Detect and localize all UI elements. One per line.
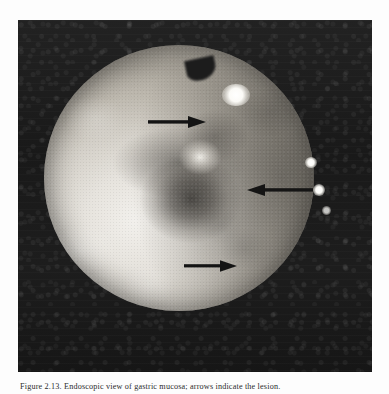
figure-caption: Figure 2.13. Endoscopic view of gastric … bbox=[20, 381, 372, 392]
annotation-arrow-top bbox=[148, 113, 210, 131]
annotation-arrow-bottom bbox=[184, 257, 240, 275]
vignette-layer bbox=[44, 45, 314, 311]
endoscopic-circular-field bbox=[44, 45, 314, 311]
annotation-arrow-middle bbox=[244, 181, 314, 199]
figure-page: Figure 2.13. Endoscopic view of gastric … bbox=[0, 0, 389, 394]
